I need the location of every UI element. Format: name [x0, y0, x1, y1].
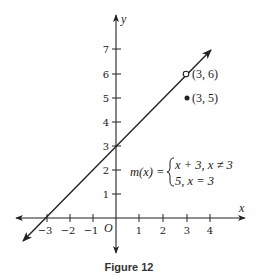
y-tick-label: 7 — [103, 44, 109, 55]
x-tick-label: 1 — [136, 225, 142, 236]
x-tick-labels: −3 −2 −1 1 2 3 4 — [38, 225, 214, 236]
x-tick-label: 3 — [184, 225, 190, 236]
x-tick-label: −3 — [38, 225, 53, 236]
y-tick-label: 4 — [103, 117, 109, 128]
y-tick-label: 1 — [103, 189, 109, 200]
origin-label: O — [104, 221, 113, 235]
formula-lhs: m(x) = — [130, 165, 164, 179]
y-tick-labels: 1 2 3 4 5 6 7 — [103, 44, 109, 200]
y-tick-label: 3 — [103, 141, 109, 152]
open-point-3-6 — [183, 71, 189, 77]
x-tick-label: −1 — [84, 225, 99, 236]
figure-caption: Figure 12 — [105, 261, 154, 273]
point-label-3-5: (3, 5) — [192, 91, 218, 105]
x-tick-label: −2 — [61, 225, 76, 236]
brace — [167, 158, 174, 186]
x-tick-label: 4 — [207, 225, 213, 236]
x-axis-label: x — [238, 201, 245, 215]
y-tick-label: 5 — [103, 93, 109, 104]
filled-point-3-5 — [185, 96, 190, 101]
y-tick-label: 2 — [103, 165, 109, 176]
y-tick-label: 6 — [103, 69, 109, 80]
function-line — [23, 50, 211, 241]
point-label-3-6: (3, 6) — [192, 67, 218, 81]
figure-12-plot: x y O −3 −2 −1 1 2 3 4 1 2 3 4 5 6 7 — [0, 0, 259, 277]
y-axis-label: y — [120, 12, 127, 26]
formula-case-2: 5, x = 3 — [175, 174, 214, 188]
formula-case-1: x + 3, x ≠ 3 — [174, 158, 233, 172]
x-tick-label: 2 — [160, 225, 166, 236]
piecewise-formula: m(x) = x + 3, x ≠ 3 5, x = 3 — [130, 158, 233, 188]
